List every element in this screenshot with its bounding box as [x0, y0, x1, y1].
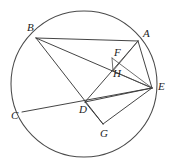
vertex-label-d: D	[79, 104, 87, 115]
vertex-label-c: C	[11, 110, 18, 121]
geometry-canvas	[0, 0, 173, 166]
vertex-label-f: F	[114, 47, 121, 58]
vertex-label-h: H	[113, 68, 121, 79]
vertex-label-e: E	[158, 81, 165, 92]
vertex-label-g: G	[100, 128, 108, 139]
segment-dg	[85, 102, 103, 124]
vertex-label-b: B	[27, 22, 34, 33]
vertex-label-a: A	[143, 28, 150, 39]
circle-geometry-diagram: ABCDEFGH	[0, 0, 173, 166]
chord-segments-group	[22, 38, 152, 124]
segment-ba	[36, 38, 138, 41]
segment-ae	[138, 41, 152, 88]
